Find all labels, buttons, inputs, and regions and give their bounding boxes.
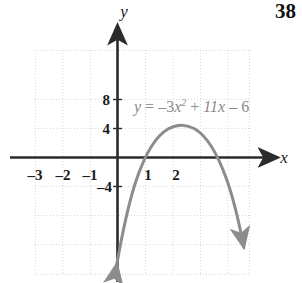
- svg-text:8: 8: [103, 92, 111, 108]
- equation-lhs: y: [134, 98, 141, 115]
- equation-term1-exponent: 2: [181, 97, 186, 108]
- svg-text:–4: –4: [96, 179, 113, 195]
- figure-page: 38: [0, 0, 302, 283]
- svg-text:2: 2: [172, 167, 180, 183]
- y-tick-labels: 8 4 –4: [96, 92, 113, 195]
- equation-term2: 11x: [203, 98, 225, 115]
- equation-annotation: y = –3x2 + 11x – 6: [134, 98, 249, 115]
- equation-equals: =: [145, 98, 154, 115]
- y-axis-label: y: [118, 2, 128, 21]
- axes: [10, 26, 277, 282]
- svg-text:–3: –3: [27, 167, 43, 183]
- equation-constant: 6: [241, 98, 249, 115]
- svg-text:–2: –2: [55, 167, 71, 183]
- x-axis-label: x: [279, 148, 288, 167]
- equation-plus: +: [190, 98, 199, 115]
- svg-text:1: 1: [144, 167, 152, 183]
- svg-text:4: 4: [103, 121, 111, 137]
- equation-minus: –: [229, 98, 237, 115]
- equation-term1-coef: –3: [158, 98, 174, 115]
- svg-text:–1: –1: [82, 167, 98, 183]
- parabola-graph: –3 –2 –1 1 2 8 4 –4 x y: [0, 0, 302, 283]
